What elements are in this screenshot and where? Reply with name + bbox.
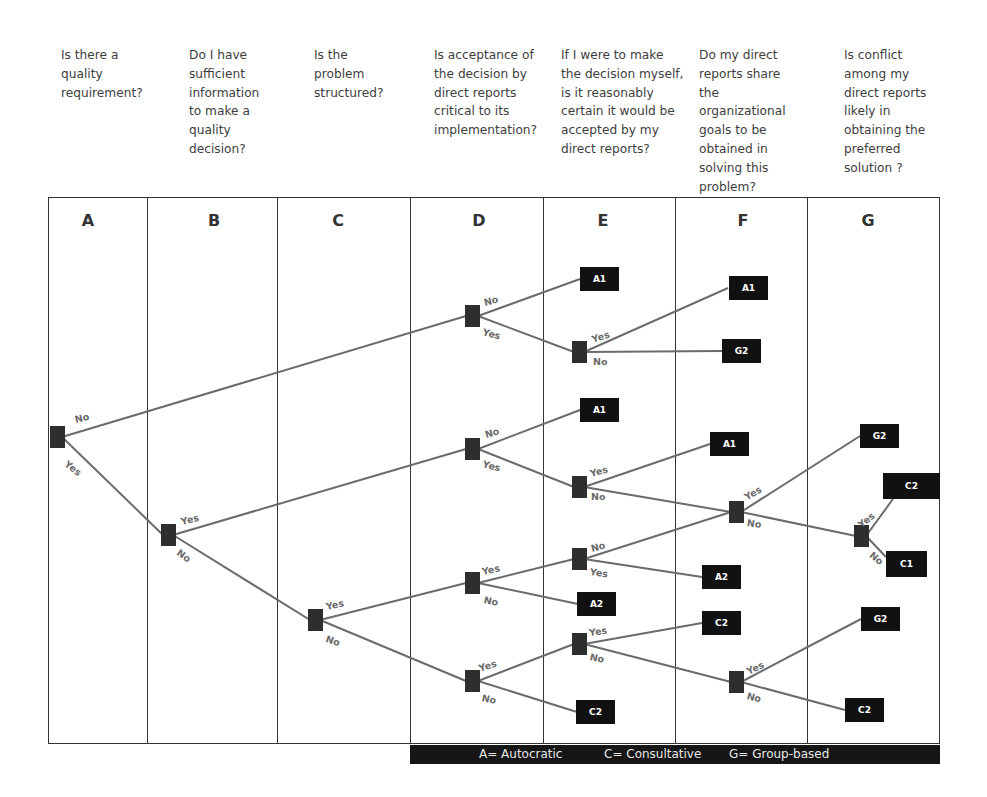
decision-node-e1[interactable]	[572, 341, 587, 363]
legend-consultative: C= Consultative	[604, 747, 701, 761]
decision-node-d4[interactable]	[465, 670, 480, 692]
outcome-leaf[interactable]: C2	[702, 611, 741, 635]
decision-node-e4[interactable]	[572, 633, 587, 655]
branch-label-no: No	[746, 517, 762, 530]
outcome-leaf[interactable]: G2	[722, 339, 761, 363]
decision-node-c[interactable]	[308, 609, 323, 631]
legend-group-based: G= Group-based	[729, 747, 829, 761]
branch-label-yes: Yes	[589, 566, 608, 579]
decision-tree-lines	[0, 0, 987, 797]
outcome-leaf[interactable]: G2	[860, 424, 899, 448]
outcome-leaf[interactable]: A1	[580, 398, 619, 422]
decision-node-d3[interactable]	[465, 572, 480, 594]
legend-bar: A= Autocratic C= Consultative G= Group-b…	[410, 745, 940, 764]
outcome-leaf[interactable]: C2	[883, 473, 940, 499]
outcome-leaf[interactable]: A1	[580, 267, 619, 291]
outcome-leaf[interactable]: G2	[861, 607, 900, 631]
outcome-leaf[interactable]: C1	[886, 551, 927, 577]
outcome-leaf[interactable]: C2	[576, 700, 615, 724]
decision-node-b[interactable]	[161, 524, 176, 546]
decision-node-e3[interactable]	[572, 548, 587, 570]
legend-autocratic: A= Autocratic	[479, 747, 562, 761]
branch-label-no: No	[591, 491, 605, 502]
outcome-leaf[interactable]: C2	[845, 698, 884, 722]
decision-node-d2[interactable]	[465, 438, 480, 460]
outcome-leaf[interactable]: A1	[710, 432, 749, 456]
decision-node-e2[interactable]	[572, 476, 587, 498]
decision-node-f2[interactable]	[729, 671, 744, 693]
outcome-leaf[interactable]: A1	[729, 276, 768, 300]
branch-label-no: No	[593, 356, 607, 367]
decision-node-f1[interactable]	[729, 501, 744, 523]
outcome-leaf[interactable]: A2	[702, 565, 741, 589]
decision-node-a[interactable]	[50, 426, 65, 448]
outcome-leaf[interactable]: A2	[577, 592, 616, 616]
decision-node-d1[interactable]	[465, 305, 480, 327]
